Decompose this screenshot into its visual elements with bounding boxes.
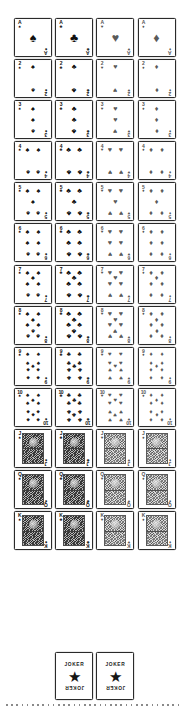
card-j-of-clubs[interactable]: J♣J♣ [55,429,93,468]
card-a-of-diamonds[interactable]: A♦A♦♦ [138,18,176,57]
pip-spades: ♠ [37,351,40,357]
card-5-of-hearts[interactable]: 5♥5♥♥♥♥♥♥ [96,182,134,221]
card-grid: A♠A♠♠A♣A♣♣A♥A♥♥A♦A♦♦2♠2♠♠♠2♣2♣♣♣2♥2♥♥♥2♦… [14,18,180,550]
card-3-of-spades[interactable]: 3♠3♠♠♠♠ [14,100,52,139]
spades-suit-icon: ♠ [45,457,47,461]
card-4-of-clubs[interactable]: 4♣4♣♣♣♣♣ [55,141,93,180]
pip-spades: ♠ [31,316,35,323]
pip-hearts: ♥ [119,239,123,246]
clubs-suit-icon: ♣ [59,477,62,481]
card-9-of-spades[interactable]: 9♠9♠♠♠♠♠♠♠♠♠♠ [14,347,52,386]
card-k-of-clubs[interactable]: K♣K♣ [55,511,93,550]
card-j-of-spades[interactable]: J♠J♠ [14,429,52,468]
card-face: K♣K♣ [57,513,92,549]
card-3-of-clubs[interactable]: 3♣3♣♣♣♣ [55,100,93,139]
card-a-of-hearts[interactable]: A♥A♥♥ [96,18,134,57]
hearts-suit-icon: ♥ [101,107,104,111]
pip-diamonds: ♦ [150,392,153,398]
hearts-suit-icon: ♥ [101,189,104,193]
pip-clubs: ♣ [78,409,82,415]
spades-suit-icon: ♠ [45,539,47,543]
card-k-of-diamonds[interactable]: K♦K♦ [138,511,176,550]
card-q-of-hearts[interactable]: Q♥Q♥ [96,470,134,509]
card-10-of-hearts[interactable]: 10♥10♥♥♥♥♥♥♥♥♥♥♥ [96,388,134,427]
spades-suit-icon: ♠ [19,312,21,316]
pip-hearts: ♥ [119,400,123,406]
card-k-of-hearts[interactable]: K♥K♥ [96,511,134,550]
pip-field: ♦♦♦ [146,104,167,135]
pip-clubs: ♣ [66,209,71,216]
card-4-of-hearts[interactable]: 4♥4♥♥♥♥♥ [96,141,134,180]
card-7-of-hearts[interactable]: 7♥7♥♥♥♥♥♥♥♥ [96,265,134,304]
pip-field: ♦♦♦♦ [146,145,167,176]
card-2-of-spades[interactable]: 2♠2♠♠♠ [14,59,52,98]
card-5-of-spades[interactable]: 5♠5♠♠♠♠♠♠ [14,182,52,221]
pip-clubs: ♣ [67,359,71,365]
card-3-of-diamonds[interactable]: 3♦3♦♦♦♦ [138,100,176,139]
hearts-suit-icon: ♥ [101,230,104,234]
pip-diamonds: ♦ [150,375,153,381]
card-joker-1[interactable]: JOKER★JOKER [55,652,93,700]
card-9-of-clubs[interactable]: 9♣9♣♣♣♣♣♣♣♣♣♣ [55,347,93,386]
card-6-of-spades[interactable]: 6♠6♠♠♠♠♠♠♠ [14,223,52,262]
clubs-suit-icon: ♣ [59,353,62,357]
card-6-of-hearts[interactable]: 6♥6♥♥♥♥♥♥♥ [96,223,134,262]
pip-clubs: ♣ [77,187,82,194]
pip-clubs: ♣ [66,239,71,246]
card-corner-index-br: 4♠ [43,169,49,178]
card-corner-index-br: J♦ [167,457,173,466]
hearts-suit-icon: ♥ [127,169,130,173]
card-row-4: 4♠4♠♠♠♠♠4♣4♣♣♣♣♣4♥4♥♥♥♥♥4♦4♦♦♦♦♦ [14,141,180,180]
pip-clubs: ♣ [77,251,82,258]
card-8-of-clubs[interactable]: 8♣8♣♣♣♣♣♣♣♣♣ [55,306,93,345]
spades-suit-icon: ♠ [45,416,47,420]
card-2-of-clubs[interactable]: 2♣2♣♣♣ [55,59,93,98]
card-q-of-spades[interactable]: Q♠Q♠ [14,470,52,509]
pip-diamonds: ♦ [160,168,164,175]
clubs-suit-icon: ♣ [59,271,62,275]
card-10-of-spades[interactable]: 10♠10♠♠♠♠♠♠♠♠♠♠♠ [14,388,52,427]
card-8-of-spades[interactable]: 8♠8♠♠♠♠♠♠♠♠♠ [14,306,52,345]
spades-suit-icon: ♠ [19,66,21,70]
card-corner-index-br: 6♣ [85,251,91,260]
card-5-of-diamonds[interactable]: 5♦5♦♦♦♦♦♦ [138,182,176,221]
pip-hearts: ♥ [108,333,112,340]
card-face: 7♠7♠♠♠♠♠♠♠♠ [16,266,51,302]
card-face: 10♣10♣♣♣♣♣♣♣♣♣♣♣ [57,389,92,425]
card-joker-2[interactable]: JOKER★JOKER [96,652,134,700]
card-a-of-spades[interactable]: A♠A♠♠ [14,18,52,57]
card-8-of-hearts[interactable]: 8♥8♥♥♥♥♥♥♥♥♥ [96,306,134,345]
card-6-of-clubs[interactable]: 6♣6♣♣♣♣♣♣♣ [55,223,93,262]
card-4-of-spades[interactable]: 4♠4♠♠♠♠♠ [14,141,52,180]
card-9-of-hearts[interactable]: 9♥9♥♥♥♥♥♥♥♥♥♥ [96,347,134,386]
card-j-of-hearts[interactable]: J♥J♥ [96,429,134,468]
card-j-of-diamonds[interactable]: J♦J♦ [138,429,176,468]
card-q-of-diamonds[interactable]: Q♦Q♦ [138,470,176,509]
pip-field: ♣♣♣♣♣♣ [64,227,85,258]
card-2-of-hearts[interactable]: 2♥2♥♥♥ [96,59,134,98]
card-10-of-diamonds[interactable]: 10♦10♦♦♦♦♦♦♦♦♦♦♦ [138,388,176,427]
card-corner-index-br: 7♦ [167,293,173,302]
card-7-of-clubs[interactable]: 7♣7♣♣♣♣♣♣♣♣ [55,265,93,304]
hearts-suit-icon: ♥ [127,87,130,91]
card-row-k: K♠K♠K♣K♣K♥K♥K♦K♦ [14,511,180,550]
card-7-of-diamonds[interactable]: 7♦7♦♦♦♦♦♦♦♦ [138,265,176,304]
card-5-of-clubs[interactable]: 5♣5♣♣♣♣♣♣ [55,182,93,221]
card-6-of-diamonds[interactable]: 6♦6♦♦♦♦♦♦♦ [138,223,176,262]
pip-diamonds: ♦ [160,228,164,235]
card-k-of-spades[interactable]: K♠K♠ [14,511,52,550]
card-row-10: 10♠10♠♠♠♠♠♠♠♠♠♠♠10♣10♣♣♣♣♣♣♣♣♣♣♣10♥10♥♥♥… [14,388,180,427]
card-3-of-hearts[interactable]: 3♥3♥♥♥♥ [96,100,134,139]
card-8-of-diamonds[interactable]: 8♦8♦♦♦♦♦♦♦♦♦ [138,306,176,345]
card-4-of-diamonds[interactable]: 4♦4♦♦♦♦♦ [138,141,176,180]
card-a-of-clubs[interactable]: A♣A♣♣ [55,18,93,57]
joker-word-bottom: JOKER [64,685,84,690]
pip-clubs: ♣ [67,367,71,373]
pip-clubs: ♣ [72,316,77,323]
card-q-of-clubs[interactable]: Q♣Q♣ [55,470,93,509]
card-10-of-clubs[interactable]: 10♣10♣♣♣♣♣♣♣♣♣♣♣ [55,388,93,427]
card-9-of-diamonds[interactable]: 9♦9♦♦♦♦♦♦♦♦♦♦ [138,347,176,386]
card-7-of-spades[interactable]: 7♠7♠♠♠♠♠♠♠♠ [14,265,52,304]
pip-clubs: ♣ [72,105,77,112]
card-2-of-diamonds[interactable]: 2♦2♦♦♦ [138,59,176,98]
